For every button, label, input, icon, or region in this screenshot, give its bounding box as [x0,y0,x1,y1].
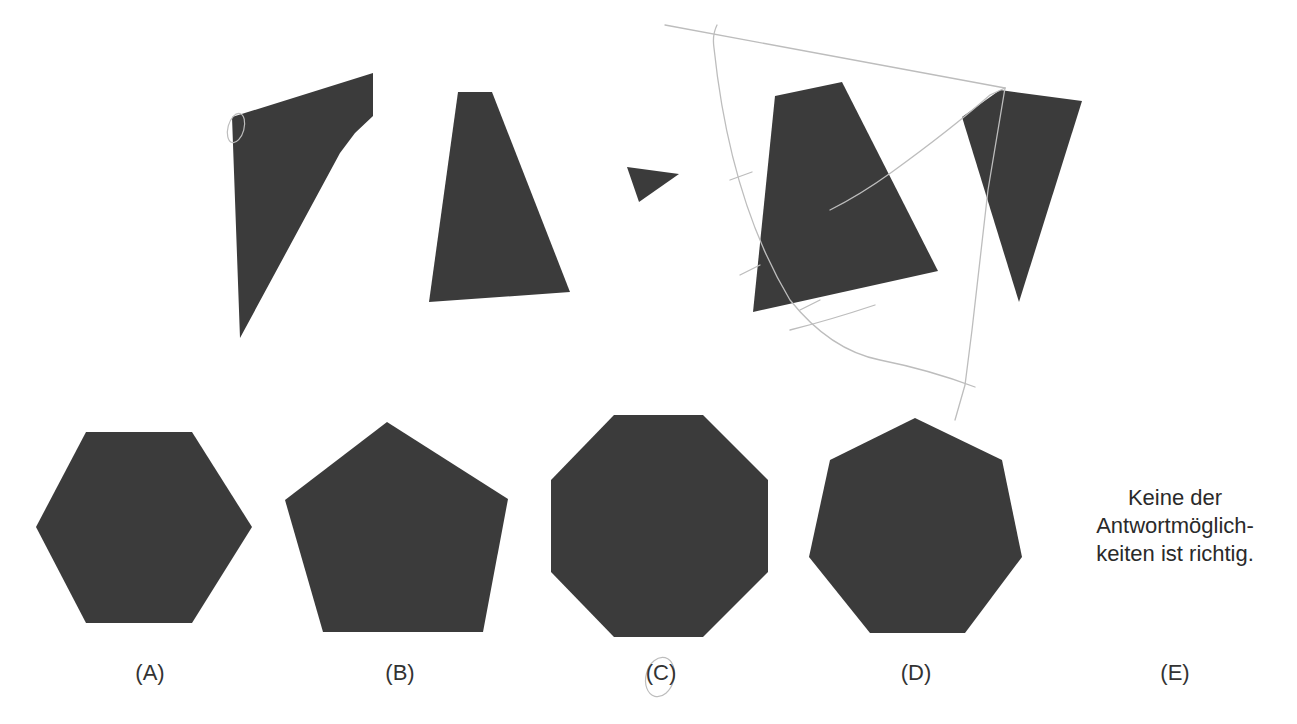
option-label-d[interactable]: (D) [901,660,932,686]
piece-2-shape [429,92,570,302]
pencil-stroke [730,172,752,180]
puzzle-pieces [232,73,1082,338]
option-label-c[interactable]: (C) [646,660,677,686]
puzzle-canvas [0,0,1297,724]
option-c-octagon-shape[interactable] [551,415,768,637]
piece-3-shape [627,167,679,202]
option-b-pentagon-shape[interactable] [285,422,508,632]
option-e-line-1: Keine der [1090,484,1260,512]
option-e-text: Keine der Antwortmöglich- keiten ist ric… [1090,484,1260,568]
option-e-line-2: Antwortmöglich- [1090,512,1260,540]
option-label-e[interactable]: (E) [1160,660,1189,686]
option-label-b[interactable]: (B) [385,660,414,686]
option-e-line-3: keiten ist richtig. [1090,540,1260,568]
option-a-hexagon-shape[interactable] [36,432,252,623]
piece-1-shape [232,73,373,338]
option-d-heptagon-shape[interactable] [809,418,1022,633]
pencil-stroke [800,300,820,310]
piece-5-shape [962,90,1082,302]
pencil-stroke [665,25,1005,88]
answer-options-shapes [36,415,1022,637]
option-label-a[interactable]: (A) [135,660,164,686]
piece-4-shape [753,82,938,312]
